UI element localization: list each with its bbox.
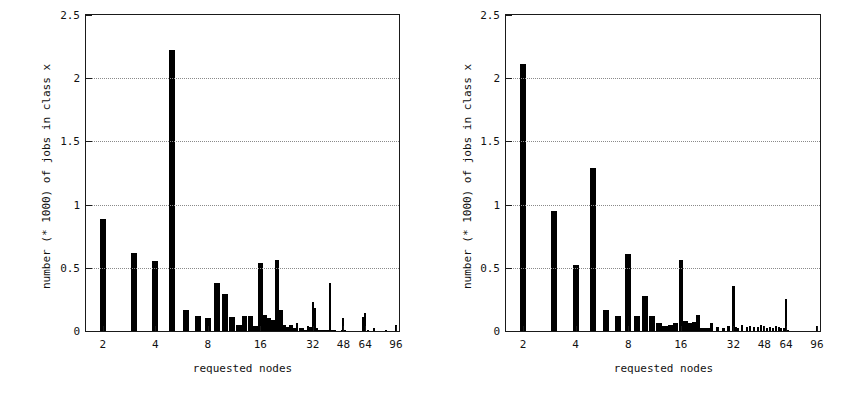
bar [656,323,662,331]
bar [367,330,369,331]
bar-series-right [506,15,820,331]
y-tick-mark-2.5 [506,15,512,16]
y-tick-mark-2 [86,78,92,79]
y-tick-label-1: 1 [493,198,500,211]
y-tick-label-1.5: 1.5 [480,135,500,148]
bar [236,325,242,331]
left-histogram-panel: number (* 1000) of jobs in class x 00.51… [0,0,420,394]
bar [732,286,734,332]
bar [615,316,621,331]
x-tick-mark-32 [313,326,314,331]
y-tick-label-0.5: 0.5 [480,261,500,274]
bar [334,330,336,331]
figure-canvas: number (* 1000) of jobs in class x 00.51… [0,0,841,394]
x-tick-mark-2 [103,326,104,331]
gridline-y-1.5 [506,141,820,142]
x-tick-mark-32 [733,326,734,331]
bar [329,283,331,331]
x-axis-title-left: requested nodes [85,362,400,375]
y-tick-mark-0 [86,331,92,332]
x-tick-label-48: 48 [758,338,771,351]
bar [625,254,631,331]
bar [551,211,557,331]
y-axis-title-left: number (* 1000) of jobs in class x [40,27,53,327]
bar [649,316,655,331]
bar [590,168,596,331]
x-tick-mark-96 [396,326,397,331]
bar [753,327,755,331]
x-tick-mark-8 [208,326,209,331]
x-tick-label-96: 96 [810,338,823,351]
bar [214,283,220,331]
y-tick-label-2: 2 [73,72,80,85]
bar [195,316,201,331]
gridline-y-1.5 [86,141,399,142]
y-tick-mark-1 [506,205,512,206]
gridline-y-1 [506,205,820,206]
bar [131,253,137,331]
bar [772,328,774,331]
y-tick-mark-0.5 [86,268,92,269]
bar [169,50,175,331]
bar [760,325,762,331]
bar [642,296,648,331]
bar [242,316,248,331]
bar [727,326,729,331]
x-tick-mark-4 [155,326,156,331]
bar [152,261,158,331]
y-tick-mark-0 [506,331,512,332]
y-tick-label-0: 0 [73,325,80,338]
y-tick-label-1.5: 1.5 [60,135,80,148]
x-tick-label-4: 4 [572,338,579,351]
gridline-y-2 [506,78,820,79]
x-tick-label-16: 16 [674,338,687,351]
bar [787,330,789,331]
gridline-y-0.5 [86,268,399,269]
x-tick-mark-16 [260,326,261,331]
bar [769,327,771,331]
x-tick-label-64: 64 [779,338,792,351]
y-tick-label-0.5: 0.5 [60,261,80,274]
y-tick-mark-0.5 [506,268,512,269]
y-tick-label-2.5: 2.5 [480,9,500,22]
x-tick-label-2: 2 [520,338,527,351]
bar-series-left [86,15,399,331]
x-tick-mark-8 [628,326,629,331]
x-tick-label-48: 48 [337,338,350,351]
y-tick-mark-1 [86,205,92,206]
plot-area-left: 00.511.522.52481632486496 [85,14,400,332]
bar [746,327,748,331]
bar [766,328,768,331]
y-tick-mark-1.5 [86,141,92,142]
x-tick-label-8: 8 [205,338,212,351]
bar [741,325,743,331]
bar [183,310,189,331]
y-tick-mark-2.5 [86,15,92,16]
bar [716,327,719,331]
x-tick-mark-64 [365,326,366,331]
bar [385,330,387,331]
y-tick-label-2.5: 2.5 [60,9,80,22]
x-tick-mark-4 [576,326,577,331]
x-tick-label-32: 32 [306,338,319,351]
bar [634,316,640,331]
bar [737,328,739,331]
bar [662,326,668,331]
y-tick-label-2: 2 [493,72,500,85]
x-tick-label-64: 64 [359,338,372,351]
y-tick-mark-1.5 [506,141,512,142]
bar [573,265,579,331]
plot-area-right: 00.511.522.52481632486496 [505,14,821,332]
x-tick-label-4: 4 [152,338,159,351]
bar [757,327,759,331]
bar [722,328,725,331]
bar [749,326,751,331]
y-axis-title-right: number (* 1000) of jobs in class x [461,27,474,327]
x-tick-mark-64 [786,326,787,331]
bar [222,294,228,331]
gridline-y-0.5 [506,268,820,269]
x-tick-label-32: 32 [727,338,740,351]
bar [373,328,375,331]
y-tick-mark-2 [506,78,512,79]
x-axis-title-right: requested nodes [506,362,821,375]
